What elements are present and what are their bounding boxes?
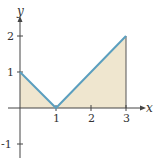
x-axis-label: x bbox=[146, 101, 153, 115]
x-tick-label-1: 1 bbox=[53, 112, 60, 125]
y-tick-label-2: 2 bbox=[7, 30, 14, 43]
x-tick-label-2: 2 bbox=[88, 112, 95, 125]
chart: y x 1 2 3 2 1 -1 bbox=[0, 0, 158, 162]
shaded-area bbox=[20, 36, 126, 108]
x-tick-label-3: 3 bbox=[123, 112, 130, 125]
y-axis-label: y bbox=[16, 4, 24, 18]
y-tick-label-neg1: -1 bbox=[1, 138, 12, 151]
y-tick-label-1: 1 bbox=[7, 66, 14, 79]
